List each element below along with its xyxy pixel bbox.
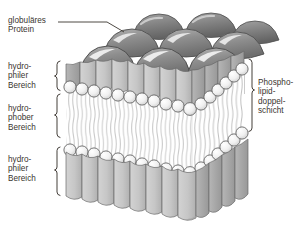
right-bracket [249, 59, 255, 132]
label-phospholipid-bilayer: Phospho- lipid- doppel- schicht [258, 78, 293, 116]
membrane-illustration [0, 0, 305, 244]
label-globular-protein: globuläres Protein [8, 16, 46, 35]
label-hydrophilic-region-top: hydro- philer Bereich [8, 62, 36, 90]
bracket-hydrophilic-bottom [55, 147, 61, 196]
protein-leader-line [58, 22, 124, 32]
membrane-diagram: globuläres Protein hydro- philer Bereich… [0, 0, 305, 244]
bracket-hydrophobic [55, 94, 61, 138]
left-brackets [55, 61, 61, 196]
label-hydrophilic-region-bottom: hydro- philer Bereich [8, 155, 36, 183]
bracket-hydrophilic-top [55, 61, 61, 91]
bracket-bilayer [249, 59, 255, 132]
label-hydrophobic-region: hydro- phober Bereich [8, 104, 36, 132]
